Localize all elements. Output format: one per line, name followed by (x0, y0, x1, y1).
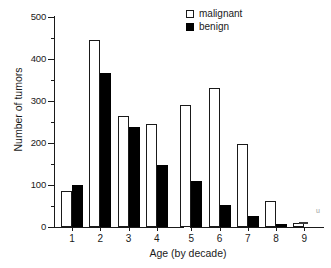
bar-malignant-decade-8 (265, 201, 276, 227)
legend-item-benign: benign (186, 21, 242, 34)
x-tick (100, 227, 101, 231)
x-tick-label: 1 (62, 233, 82, 244)
bar-benign-decade-5 (191, 181, 202, 227)
bar-malignant-decade-1 (61, 191, 72, 227)
y-tick-label: 300 (20, 96, 46, 106)
x-tick-label: 8 (266, 233, 286, 244)
bar-benign-decade-1 (72, 185, 83, 227)
x-tick-label: 4 (147, 233, 167, 244)
legend-item-malignant: malignant (186, 8, 242, 21)
y-tick-major (48, 185, 55, 186)
y-tick-major (48, 17, 55, 18)
x-tick (157, 227, 158, 231)
bar-malignant-decade-5 (180, 105, 191, 227)
y-tick-major (48, 59, 55, 60)
x-axis-title: Age (by decade) (55, 247, 321, 259)
open-square-icon (186, 10, 194, 18)
y-axis-tick-labels: 0100200300400500 (14, 0, 46, 268)
bar-benign-decade-7 (248, 216, 259, 227)
x-axis-line-left (54, 227, 184, 228)
x-tick (304, 227, 305, 231)
x-tick-label: 3 (119, 233, 139, 244)
x-tick (220, 227, 221, 231)
y-tick-label: 400 (20, 54, 46, 64)
scan-artifact-mark: u (316, 207, 320, 214)
y-tick-label: 100 (20, 180, 46, 190)
x-tick-label: 7 (238, 233, 258, 244)
legend-label-benign: benign (199, 21, 229, 34)
bar-malignant-decade-6 (209, 88, 220, 227)
bar-malignant-decade-7 (237, 144, 248, 227)
scan-artifact-smudge (299, 222, 308, 224)
x-tick-label: 9 (294, 233, 314, 244)
filled-square-icon (186, 23, 194, 31)
bar-benign-decade-2 (100, 73, 111, 227)
y-tick-label: 200 (20, 138, 46, 148)
bar-malignant-decade-4 (146, 124, 157, 227)
x-tick (191, 227, 192, 231)
x-tick (72, 227, 73, 231)
y-tick-label: 500 (20, 12, 46, 22)
y-tick-major (48, 143, 55, 144)
x-tick-label: 6 (210, 233, 230, 244)
x-tick (248, 227, 249, 231)
legend: malignant benign (186, 8, 242, 33)
bar-benign-decade-4 (157, 165, 168, 227)
y-tick-label: 0 (20, 222, 46, 232)
plot-area (55, 17, 321, 227)
y-tick-major (48, 227, 55, 228)
x-tick-label: 2 (90, 233, 110, 244)
bar-benign-decade-6 (220, 205, 231, 227)
bar-benign-decade-8 (276, 224, 287, 227)
bar-malignant-decade-3 (118, 116, 129, 227)
x-tick (276, 227, 277, 231)
x-tick (129, 227, 130, 231)
bar-benign-decade-3 (129, 127, 140, 227)
chart-figure: Number of tumors 0100200300400500 Age (b… (0, 0, 331, 268)
bar-malignant-decade-2 (89, 40, 100, 227)
legend-label-malignant: malignant (199, 8, 242, 21)
y-tick-major (48, 101, 55, 102)
x-tick-label: 5 (181, 233, 201, 244)
